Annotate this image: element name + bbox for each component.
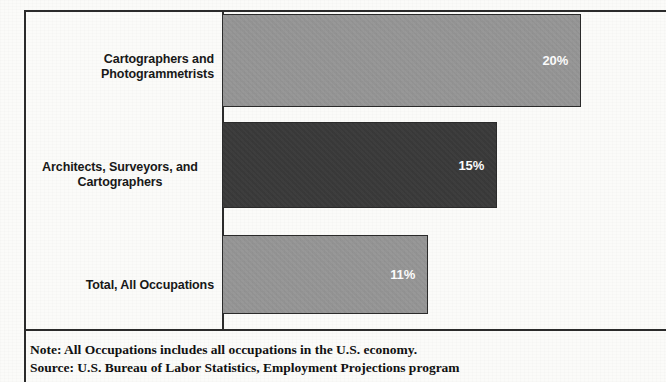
bar-architects-surveyors-and-cartographers: 15%: [222, 122, 497, 208]
category-label-line-2: Cartographers: [26, 175, 214, 190]
bar-value-label: 11%: [390, 267, 427, 282]
category-label-architects-surveyors-and-cartographers: Architects, Surveyors, and Cartographers: [26, 160, 214, 190]
source-text: Source: U.S. Bureau of Labor Statistics,…: [30, 359, 650, 377]
bar-value-label: 15%: [459, 158, 496, 173]
value-axis-baseline: [26, 329, 666, 331]
category-label-line-1: Total, All Occupations: [26, 278, 214, 293]
category-label-cartographers-and-photogrammetrists: Cartographers and Photogrammetrists: [26, 52, 214, 82]
category-label-line-2: Photogrammetrists: [26, 67, 214, 82]
footnotes: Note: All Occupations includes all occup…: [30, 341, 650, 377]
bar-value-label: 20%: [543, 53, 580, 68]
bar-cartographers-and-photogrammetrists: 20%: [222, 14, 581, 107]
chart-figure: Cartographers and Photogrammetrists 20% …: [0, 0, 666, 382]
plot-area: Cartographers and Photogrammetrists 20% …: [26, 12, 666, 330]
bar-total-all-occupations: 11%: [222, 235, 428, 314]
category-label-total-all-occupations: Total, All Occupations: [26, 278, 214, 293]
category-label-line-1: Cartographers and: [26, 52, 214, 67]
note-text: Note: All Occupations includes all occup…: [30, 341, 650, 359]
category-label-line-1: Architects, Surveyors, and: [26, 160, 214, 175]
